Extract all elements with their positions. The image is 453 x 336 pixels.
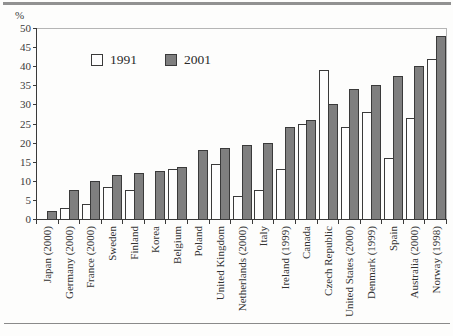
bar-chart-canvas: 05101520253035404550Japan (2000)Germany … [0, 0, 453, 336]
bar-1991-finland [126, 191, 135, 220]
bar-2001-germany-2000 [70, 191, 79, 220]
bar-2001-norway-1998 [437, 36, 446, 219]
x-axis-label: Belgium [171, 226, 183, 264]
x-axis-label: Ireland (1999) [279, 226, 292, 290]
top-rule [3, 2, 451, 5]
bar-2001-spain [394, 76, 403, 219]
y-axis-tick-label: 5 [26, 194, 32, 206]
legend-label-2001: 2001 [184, 52, 211, 68]
bar-1991-france-2000 [83, 204, 92, 219]
bar-1991-germany-2000 [61, 208, 70, 219]
bar-2001-poland [199, 151, 208, 220]
bar-2001-united-kingdom [221, 149, 230, 220]
x-axis-label: Spain [387, 226, 399, 252]
x-axis-label: Denmark (1999) [365, 226, 378, 299]
bar-1991-canada [299, 124, 308, 220]
bar-2001-finland [135, 174, 144, 220]
x-axis-label: Sweden [106, 226, 118, 261]
bar-1991-denmark-1999 [363, 113, 372, 220]
y-axis-tick-label: 10 [20, 175, 32, 187]
legend-item-1991: 1991 [91, 52, 137, 68]
bar-2001-sweden [113, 176, 122, 220]
x-axis-label: United Kingdom [214, 226, 226, 301]
bar-1991-czech-republic [320, 71, 329, 220]
bar-1991-belgium [169, 170, 178, 220]
legend: 1991 2001 [91, 52, 211, 68]
y-axis-tick-label: 35 [20, 79, 32, 91]
x-axis-label: Czech Republic [322, 226, 334, 296]
bar-2001-italy [264, 143, 273, 219]
bar-1991-ireland-1999 [277, 170, 286, 220]
y-axis-tick-label: 0 [26, 213, 32, 225]
y-axis-tick-label: 30 [20, 98, 32, 110]
x-axis-label: Finland [128, 226, 140, 260]
bar-2001-czech-republic [329, 105, 338, 220]
y-axis-tick-label: 15 [20, 156, 32, 168]
x-axis-label: Germany (2000) [63, 226, 76, 299]
legend-label-1991: 1991 [110, 52, 137, 68]
legend-swatch-2001 [165, 54, 177, 66]
legend-item-2001: 2001 [165, 52, 211, 68]
bottom-rule [4, 323, 450, 324]
y-axis-tick-label: 50 [20, 22, 32, 34]
x-axis-label: Japan (2000) [41, 226, 54, 283]
bar-2001-ireland-1999 [286, 128, 295, 220]
x-axis-label: Italy [257, 226, 269, 247]
bar-2001-denmark-1999 [372, 86, 381, 220]
x-axis-label: Netherlands (2000) [236, 226, 249, 312]
y-axis-tick-label: 20 [20, 137, 32, 149]
bar-2001-united-states-2000 [350, 90, 359, 220]
x-axis-label: Canada [300, 226, 312, 259]
bar-1991-united-kingdom [212, 164, 221, 219]
x-axis-label: France (2000) [84, 226, 97, 288]
y-axis-tick-label: 45 [20, 41, 32, 53]
legend-swatch-1991 [91, 54, 103, 66]
y-axis-tick-label: 40 [20, 60, 32, 72]
bar-1991-netherlands-2000 [234, 197, 243, 220]
x-axis-label: Korea [149, 226, 161, 253]
bar-2001-australia-2000 [415, 67, 424, 220]
bar-1991-sweden [104, 187, 113, 219]
y-axis-unit: % [15, 9, 24, 21]
bar-2001-france-2000 [91, 181, 100, 219]
bar-1991-united-states-2000 [342, 128, 351, 220]
x-axis-label: Norway (1998) [430, 226, 443, 294]
bar-2001-netherlands-2000 [243, 145, 252, 219]
bar-2001-japan-2000 [48, 212, 57, 220]
bar-chart: 05101520253035404550Japan (2000)Germany … [0, 0, 453, 336]
x-axis-label: Poland [192, 226, 204, 257]
bar-2001-korea [156, 172, 165, 220]
bar-1991-italy [255, 191, 264, 220]
bar-2001-belgium [178, 168, 187, 220]
x-axis-label: Australia (2000) [408, 226, 421, 299]
bar-2001-canada [307, 120, 316, 219]
bar-1991-australia-2000 [407, 118, 416, 219]
bar-1991-spain [385, 158, 394, 219]
y-axis-tick-label: 25 [20, 118, 32, 130]
x-axis-label: United States (2000) [343, 226, 356, 317]
bar-1991-norway-1998 [428, 59, 437, 219]
